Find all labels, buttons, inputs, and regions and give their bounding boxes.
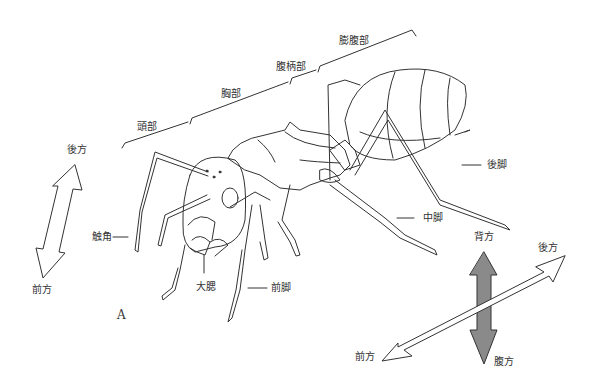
label-foreleg: 前脚 — [271, 283, 291, 293]
label-ventral: 腹方 — [494, 357, 514, 367]
ant-anatomy-diagram — [0, 0, 597, 389]
label-gaster: 膨腹部 — [339, 36, 369, 46]
petiole — [320, 140, 360, 183]
label-left-anterior: 前方 — [32, 285, 52, 295]
label-antenna: 触角 — [92, 232, 112, 242]
label-thorax: 胸部 — [221, 89, 241, 99]
label-left-posterior: 後方 — [67, 145, 87, 155]
label-dorsal: 背方 — [474, 232, 494, 242]
label-head: 頭部 — [137, 122, 157, 132]
hindleg — [328, 80, 510, 230]
label-right-posterior: 後方 — [538, 243, 558, 253]
label-hindleg: 後脚 — [487, 160, 507, 170]
label-midleg: 中脚 — [423, 213, 443, 223]
segment-bracket — [122, 30, 416, 148]
label-petiole: 腹柄部 — [276, 62, 306, 72]
thorax — [228, 122, 350, 190]
anterior-posterior-arrow-icon — [36, 165, 82, 278]
label-mandible: 大腮 — [196, 282, 216, 292]
panel-label: A — [117, 309, 126, 321]
label-right-anterior: 前方 — [355, 352, 375, 362]
gaster — [345, 69, 466, 160]
